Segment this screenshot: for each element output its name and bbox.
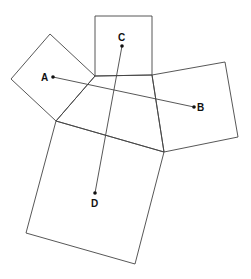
geometry-diagram: ABCD (0, 0, 251, 279)
segments-group (53, 46, 194, 193)
point-C (120, 44, 124, 48)
label-C: C (118, 32, 125, 43)
label-D: D (91, 198, 98, 209)
points-group: ABCD (41, 32, 204, 209)
segment-CD (95, 46, 122, 193)
label-A: A (41, 72, 48, 83)
squares-group (11, 16, 238, 264)
label-B: B (197, 102, 204, 113)
point-B (192, 105, 196, 109)
point-D (93, 191, 97, 195)
point-A (51, 75, 55, 79)
segment-AB (53, 77, 194, 107)
